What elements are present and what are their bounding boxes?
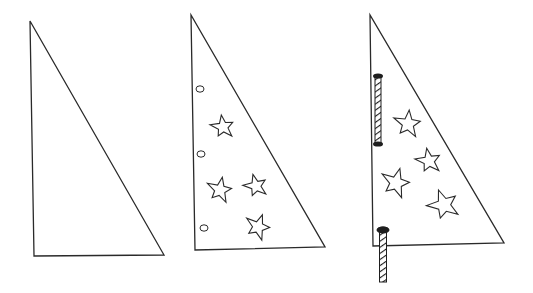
punched-hole: [197, 151, 205, 157]
star-icon: [415, 148, 440, 171]
sail-craft-illustration: Three-step line illustration of making a…: [0, 0, 533, 293]
star-icon: [210, 115, 233, 136]
star-icon: [394, 110, 421, 137]
mast-rod: [377, 226, 390, 282]
step-1-plain-triangle: [30, 21, 164, 256]
rod-cap-bottom: [373, 141, 383, 146]
star-icon: [207, 177, 231, 202]
star-icon: [426, 190, 458, 218]
sail-triangle-outline: [370, 15, 504, 246]
mast-rod: [373, 73, 383, 146]
sail-triangle-outline: [191, 15, 325, 250]
star-icon: [247, 215, 270, 240]
star-icon: [243, 174, 266, 195]
step-3-sail-on-mast: [370, 15, 504, 282]
star-icon: [382, 169, 409, 198]
illustration-canvas: [0, 0, 533, 293]
punched-hole: [196, 86, 204, 92]
punched-hole: [200, 225, 208, 231]
sail-triangle-outline: [30, 21, 164, 256]
rod-cap-top: [373, 73, 383, 78]
step-2-triangle-with-holes-and-stars: [191, 15, 325, 250]
